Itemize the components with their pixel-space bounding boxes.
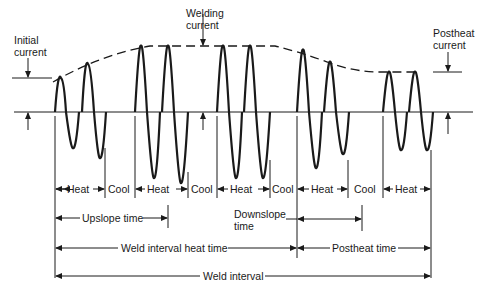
- weld-interval-heat-time-label: Weld interval heat time: [121, 242, 228, 254]
- cool-label-1: Cool: [108, 183, 130, 195]
- initial-current-label-2: current: [14, 46, 47, 58]
- heat-label-2: Heat: [147, 183, 169, 195]
- postheat-time-label: Postheat time: [332, 242, 396, 254]
- welding-current-label-1: Welding: [186, 7, 224, 19]
- current-envelope: [53, 46, 418, 82]
- weld-interval-label: Weld interval: [203, 270, 264, 282]
- cool-label-4: Cool: [354, 183, 376, 195]
- cool-label-3: Cool: [272, 183, 294, 195]
- heat-label-5: Heat: [395, 183, 417, 195]
- downslope-time-label-1: Downslope: [234, 208, 286, 220]
- cool-label-2: Cool: [191, 183, 213, 195]
- initial-current-label-1: Initial: [14, 34, 39, 46]
- upslope-time-label: Upslope time: [82, 212, 143, 224]
- downslope-time-label-2: time: [234, 220, 254, 232]
- postheat-current-label-1: Postheat: [433, 27, 475, 39]
- heat-cool-row: Heat Cool Heat Cool Heat Cool Heat Cool …: [56, 183, 430, 195]
- waveform: [55, 46, 433, 184]
- welding-current-label-2: current: [186, 19, 219, 31]
- heat-label-1: Heat: [67, 183, 89, 195]
- postheat-current-label-2: current: [433, 39, 466, 51]
- heat-label-3: Heat: [230, 183, 252, 195]
- heat-label-4: Heat: [311, 183, 333, 195]
- welding-current-diagram: Initial current Welding current Postheat…: [0, 0, 484, 298]
